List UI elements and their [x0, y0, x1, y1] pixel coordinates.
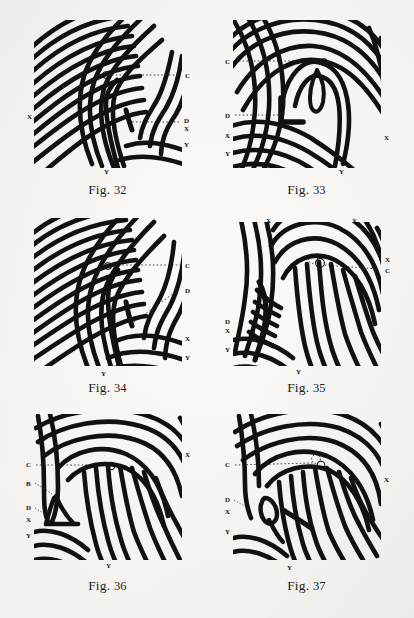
label-y-left: Y — [26, 532, 31, 540]
label-c: C — [225, 461, 230, 469]
caption-prefix: Fig. — [287, 380, 309, 395]
label-c: C — [185, 262, 190, 270]
label-x-left: X — [26, 516, 31, 524]
label-y-left: Y — [225, 150, 230, 158]
label-x-left: X — [27, 113, 32, 121]
caption-prefix: Fig. — [88, 380, 110, 395]
fingerprint-diagram-fig36: C B D X Y X Y — [22, 410, 194, 576]
fingerprint-diagram-fig34: C D X Y Y — [22, 212, 194, 378]
figure-cell-fig32: C D X Y X Y Fig. 32 — [8, 14, 207, 212]
label-x-top-left: X — [266, 217, 271, 225]
label-d: D — [225, 318, 230, 326]
label-x-left: X — [225, 132, 230, 140]
figure-caption-fig36: Fig. 36 — [88, 578, 127, 594]
caption-number: 36 — [114, 579, 127, 593]
figure-caption-fig37: Fig. 37 — [287, 578, 326, 594]
figure-caption-fig33: Fig. 33 — [287, 182, 326, 198]
label-x-right: X — [184, 125, 189, 133]
caption-prefix: Fig. — [287, 182, 309, 197]
fingerprint-diagram-fig32: C D X Y X Y — [22, 14, 194, 180]
figure-caption-fig34: Fig. 34 — [88, 380, 127, 396]
label-y-left: Y — [225, 346, 230, 354]
figure-cell-fig36: C B D X Y X Y Fig. 36 — [8, 410, 207, 608]
label-x-left: X — [225, 327, 230, 335]
fingerprint-diagram-fig33: C D X Y X Y — [221, 14, 393, 180]
figure-cell-fig33: C D X Y X Y Fig. 33 — [207, 14, 406, 212]
label-y-bottom: Y — [106, 562, 111, 570]
caption-prefix: Fig. — [88, 182, 110, 197]
label-d: D — [225, 496, 230, 504]
label-y-bottom: Y — [104, 168, 109, 176]
label-y-bottom: Y — [296, 368, 301, 376]
label-y-left: Y — [225, 528, 230, 536]
label-c: C — [26, 461, 31, 469]
caption-number: 33 — [313, 183, 326, 197]
label-y-right: Y — [184, 141, 189, 149]
label-d: D — [185, 287, 190, 295]
fingerprint-diagram-fig37: C D X Y X Y — [221, 410, 393, 576]
label-d: D — [26, 504, 31, 512]
figure-cell-fig34: C D X Y Y Fig. 34 — [8, 212, 207, 410]
figure-plate-grid: C D X Y X Y Fig. 32 — [0, 0, 414, 618]
figure-cell-fig35: X X X C D X Y Y Fig. 35 — [207, 212, 406, 410]
label-c: C — [185, 72, 190, 80]
label-x-right: X — [384, 476, 389, 484]
figure-cell-fig37: C D X Y X Y Fig. 37 — [207, 410, 406, 608]
label-y-right: Y — [185, 354, 190, 362]
caption-prefix: Fig. — [287, 578, 309, 593]
label-x-top-right: X — [352, 217, 357, 225]
label-d: D — [184, 117, 189, 125]
label-c: C — [385, 267, 390, 275]
caption-number: 37 — [313, 579, 326, 593]
label-y-bottom: Y — [287, 564, 292, 572]
label-x-left: X — [225, 508, 230, 516]
label-b: B — [26, 480, 31, 488]
label-x-right: X — [385, 256, 390, 264]
caption-number: 32 — [114, 183, 127, 197]
caption-number: 34 — [114, 381, 127, 395]
label-c: C — [225, 58, 230, 66]
fingerprint-diagram-fig35: X X X C D X Y Y — [221, 212, 393, 378]
label-x-right: X — [185, 335, 190, 343]
label-d: D — [225, 112, 230, 120]
figure-caption-fig35: Fig. 35 — [287, 380, 326, 396]
figure-caption-fig32: Fig. 32 — [88, 182, 127, 198]
caption-prefix: Fig. — [88, 578, 110, 593]
label-x-right: X — [185, 451, 190, 459]
label-y-bottom: Y — [101, 370, 106, 378]
label-x-right: X — [384, 134, 389, 142]
label-y-bottom: Y — [339, 168, 344, 176]
caption-number: 35 — [313, 381, 326, 395]
